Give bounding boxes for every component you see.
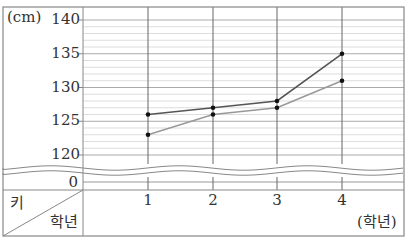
corner-label-grade: 학년 — [50, 215, 78, 230]
series-dark-line — [148, 54, 342, 115]
y-tick-label: 120 — [51, 147, 80, 162]
x-unit-label: (학년) — [357, 215, 397, 230]
data-point — [340, 51, 345, 56]
data-point — [211, 105, 216, 110]
data-point — [211, 112, 216, 117]
data-point — [275, 99, 280, 104]
y-tick-label: 135 — [51, 46, 80, 61]
data-point — [275, 105, 280, 110]
y-tick-zero: 0 — [68, 175, 78, 190]
x-tick-label: 3 — [272, 193, 282, 208]
corner-label-height: 키 — [10, 196, 24, 211]
y-unit-label: (cm) — [7, 10, 41, 25]
data-point — [146, 132, 151, 137]
data-point — [340, 78, 345, 83]
y-tick-label: 130 — [51, 80, 80, 95]
data-point — [146, 112, 151, 117]
height-line-chart: (cm) 140135130125120 0 1234 키 학년 (학년) — [0, 0, 409, 240]
x-tick-label: 1 — [143, 193, 153, 208]
y-tick-label: 125 — [51, 113, 80, 128]
x-tick-label: 2 — [208, 193, 218, 208]
x-tick-label: 4 — [337, 193, 347, 208]
y-tick-label: 140 — [51, 12, 80, 27]
